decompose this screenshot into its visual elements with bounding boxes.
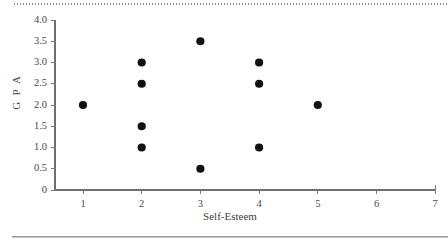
- x-tick-label: 5: [309, 199, 327, 210]
- data-point: [255, 58, 263, 66]
- data-point: [255, 143, 263, 151]
- data-point: [79, 101, 87, 109]
- y-axis-label: G P A: [10, 62, 22, 122]
- y-tick-label: 3.5: [21, 36, 47, 47]
- tick-marks-group: [51, 20, 435, 194]
- bottom-solid-rule: [12, 236, 448, 238]
- axes-group: [55, 20, 435, 190]
- x-tick-label: 6: [368, 199, 386, 210]
- data-point: [138, 80, 146, 88]
- y-tick-label: 2.5: [21, 78, 47, 89]
- x-tick-label: 3: [191, 199, 209, 210]
- x-axis-label: Self-Esteem: [175, 210, 285, 222]
- data-point: [138, 122, 146, 130]
- x-tick-label: 2: [133, 199, 151, 210]
- y-tick-label: 4.0: [21, 15, 47, 26]
- data-point: [138, 58, 146, 66]
- y-tick-label: 1.0: [21, 142, 47, 153]
- scatter-plot-figure: 00.51.01.52.02.53.03.54.01234567 G P A S…: [0, 0, 448, 245]
- data-point: [314, 101, 322, 109]
- data-point: [138, 143, 146, 151]
- x-tick-label: 4: [250, 199, 268, 210]
- data-point: [196, 37, 204, 45]
- y-tick-label: 0.5: [21, 163, 47, 174]
- data-point: [255, 80, 263, 88]
- x-tick-label: 1: [74, 199, 92, 210]
- x-tick-label: 7: [426, 199, 444, 210]
- data-point: [196, 165, 204, 173]
- y-tick-label: 1.5: [21, 121, 47, 132]
- y-tick-label: 3.0: [21, 57, 47, 68]
- data-points-group: [79, 37, 322, 173]
- y-tick-label: 2.0: [21, 100, 47, 111]
- y-tick-label: 0: [21, 185, 47, 196]
